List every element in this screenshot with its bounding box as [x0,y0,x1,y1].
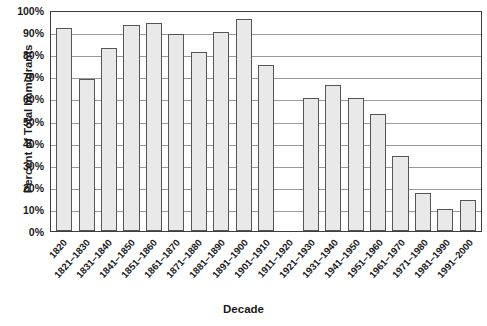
bar-slot [277,12,299,231]
y-axis-ticks: 100%90%80%70%60%50%40%30%20%10%0% [4,11,44,232]
bar[interactable] [56,28,72,231]
bar-slot [98,12,120,231]
bar-slot [367,12,389,231]
bar[interactable] [123,25,139,231]
bar-series [51,12,481,231]
bar-slot [344,12,366,231]
y-axis-tick-label: 10% [4,204,44,216]
bar-slot [457,12,479,231]
bar[interactable] [146,23,162,231]
y-axis-tick-label: 60% [4,93,44,105]
bar-slot [232,12,254,231]
bar-slot [322,12,344,231]
y-axis-tick-label: 40% [4,138,44,150]
bar-slot [188,12,210,231]
y-axis-tick-label: 20% [4,182,44,194]
bar-slot [210,12,232,231]
y-axis-tick-label: 70% [4,71,44,83]
bar[interactable] [79,79,95,231]
bar-slot [75,12,97,231]
bar-slot [53,12,75,231]
y-axis-tick-label: 30% [4,160,44,172]
bar-chart: Percent of Total Immigrants 100%90%80%70… [0,0,487,326]
x-axis-tick-slot: 1991–2000 [458,232,481,294]
bar-slot [120,12,142,231]
plot-area [50,11,482,232]
bar-slot [300,12,322,231]
bar-slot [434,12,456,231]
y-axis-tick-label: 80% [4,49,44,61]
bar-slot [389,12,411,231]
y-axis-tick-label: 100% [4,5,44,17]
y-axis-tick-label: 90% [4,27,44,39]
x-axis-title: Decade [0,303,487,315]
x-axis-ticks: 18201821–18301831–18401841–18501851–1860… [50,232,482,294]
bar-slot [143,12,165,231]
bar-slot [412,12,434,231]
y-axis-tick-label: 50% [4,116,44,128]
bar-slot [165,12,187,231]
bar-slot [255,12,277,231]
y-axis-tick-label: 0% [4,226,44,238]
bar[interactable] [236,19,252,231]
